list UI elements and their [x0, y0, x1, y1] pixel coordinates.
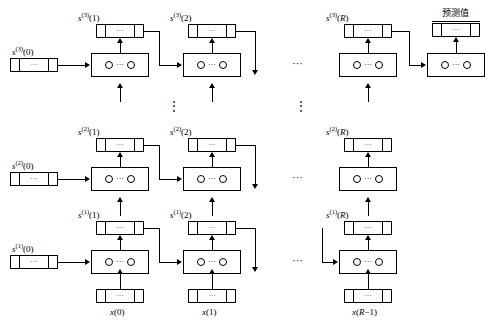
prediction-cell: ···	[432, 23, 480, 37]
lstm-block-output: ···	[427, 53, 485, 77]
conn-block-to-state-l3-R	[368, 43, 369, 53]
arrowhead	[453, 37, 459, 42]
conn-xR1-to-block	[368, 274, 369, 289]
arrowhead	[365, 269, 371, 274]
conn-block-to-state-l3-2	[212, 43, 213, 53]
conn-l3-1-right	[144, 31, 160, 32]
diagram-canvas: s(3)(0) ··· ··· s(3)(1) ··· ··· s(3)(2) …	[0, 0, 497, 326]
lstm-block-l3-t1: ···	[91, 53, 149, 77]
state-label-l2-0: s(2)(0)	[12, 160, 34, 171]
state-label-l3-2: s(3)(2)	[170, 12, 192, 23]
arrowhead	[85, 62, 90, 68]
arrowhead	[117, 269, 123, 274]
conn-l2-up-t1	[120, 88, 121, 102]
ellipsis-vertical-mid-left: ⋮	[168, 100, 180, 112]
state-cell-l2-2: ···	[188, 138, 236, 152]
conn-block-to-state-l2-2	[212, 157, 213, 167]
state-cell-l1-R: ···	[344, 221, 392, 235]
arrowhead	[252, 184, 258, 189]
state-cell-l3-0: ···	[10, 58, 58, 72]
conn-l3-R-down	[409, 31, 410, 65]
arrowhead	[209, 197, 215, 202]
arrowhead	[365, 38, 371, 43]
conn-l2-1-down	[159, 145, 160, 179]
state-label-l2-1: s(2)(1)	[78, 126, 100, 137]
state-cell-l3-R: ···	[344, 24, 392, 38]
arrowhead	[209, 152, 215, 157]
arrowhead	[209, 235, 215, 240]
arrowhead	[177, 176, 182, 182]
conn-block-to-state-l1-R	[368, 240, 369, 250]
arrowhead	[365, 235, 371, 240]
state-label-l3-R: s(3)(R)	[326, 12, 349, 23]
state-cell-l1-1: ···	[96, 221, 144, 235]
conn-block-to-state-l1-1	[120, 240, 121, 250]
input-cell-x0: ···	[96, 289, 144, 303]
arrowhead	[117, 38, 123, 43]
state-cell-l1-0: ···	[10, 255, 58, 269]
conn-l2-up-tR	[368, 88, 369, 102]
ellipsis-vertical-mid-right: ⋮	[295, 100, 307, 112]
ellipsis-row2: ···	[292, 172, 303, 183]
conn-l2-2-down	[255, 145, 256, 185]
conn-l1-up-t2	[212, 202, 213, 216]
lstm-block-l3-tR: ···	[339, 53, 397, 77]
conn-l3-0-to-block1	[58, 65, 86, 66]
conn-l1-up-t1	[120, 202, 121, 216]
state-cell-l2-R: ···	[344, 138, 392, 152]
input-cell-xR1: ···	[344, 289, 392, 303]
lstm-block-l2-t1: ···	[91, 167, 149, 191]
state-label-l2-R: s(2)(R)	[326, 126, 349, 137]
state-label-l3-1: s(3)(1)	[78, 12, 100, 23]
arrowhead	[85, 176, 90, 182]
state-label-l1-R: s(1)(R)	[326, 209, 349, 220]
state-cell-l2-1: ···	[96, 138, 144, 152]
ellipsis-row1: ···	[292, 58, 303, 69]
conn-block-to-state-l2-R	[368, 157, 369, 167]
conn-l2-up-t2	[212, 88, 213, 102]
state-label-l2-2: s(2)(2)	[170, 126, 192, 137]
conn-block-to-state-l3-1	[120, 43, 121, 53]
conn-l1-0-to-block1	[58, 262, 86, 263]
arrowhead	[333, 259, 338, 265]
lstm-block-l2-tR: ···	[339, 167, 397, 191]
conn-l1-1-down	[159, 228, 160, 262]
prediction-underline	[432, 21, 480, 22]
state-cell-l1-2: ···	[188, 221, 236, 235]
input-label-xR1: x(R−1)	[352, 308, 377, 317]
input-label-x0: x(0)	[110, 308, 125, 317]
conn-l1-1-right	[144, 228, 160, 229]
arrowhead	[117, 235, 123, 240]
conn-l3-R-right	[392, 31, 410, 32]
conn-block-to-state-l2-1	[120, 157, 121, 167]
arrowhead	[209, 38, 215, 43]
conn-l3-2-right	[236, 31, 256, 32]
ellipsis-row3: ···	[292, 255, 303, 266]
lstm-block-l2-t2: ···	[183, 167, 241, 191]
arrowhead	[365, 152, 371, 157]
conn-l1-2-right	[236, 228, 256, 229]
state-label-l1-2: s(1)(2)	[170, 209, 192, 220]
conn-l1-2-down	[255, 228, 256, 268]
conn-l2-2-right	[236, 145, 256, 146]
arrowhead	[177, 62, 182, 68]
arrowhead	[365, 83, 371, 88]
arrowhead	[365, 197, 371, 202]
state-label-l3-0: s(3)(0)	[12, 46, 34, 57]
arrowhead	[117, 83, 123, 88]
state-label-l1-1: s(1)(1)	[78, 209, 100, 220]
prediction-label: 预测值	[442, 9, 469, 18]
state-cell-l3-1: ···	[96, 24, 144, 38]
conn-l2-1-to-block2	[159, 179, 178, 180]
state-cell-l3-2: ···	[188, 24, 236, 38]
conn-l3-2-down	[255, 31, 256, 71]
conn-l1-up-tR	[368, 202, 369, 216]
conn-l1-1-to-block2	[159, 262, 178, 263]
input-label-x1: x(1)	[202, 308, 217, 317]
conn-x1-to-block	[212, 274, 213, 289]
conn-out-to-prediction	[456, 42, 457, 53]
arrowhead	[177, 259, 182, 265]
arrowhead	[117, 152, 123, 157]
state-cell-l2-0: ···	[10, 172, 58, 186]
arrowhead	[117, 197, 123, 202]
